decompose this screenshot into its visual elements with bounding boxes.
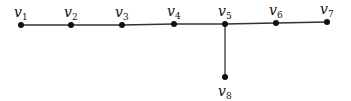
labels-group: v1v2v3v4v5v6v7v8 <box>14 1 334 101</box>
edge-v3-v4 <box>122 24 174 25</box>
node-v3 <box>119 22 125 28</box>
edges-group <box>21 22 327 77</box>
node-v8 <box>222 74 228 80</box>
node-label-v6: v6 <box>269 2 283 20</box>
node-v2 <box>68 22 74 28</box>
node-v4 <box>171 21 177 27</box>
nodes-group <box>18 19 330 80</box>
node-label-v8: v8 <box>218 83 232 101</box>
node-label-v1: v1 <box>14 4 28 22</box>
node-v1 <box>18 22 24 28</box>
graph-diagram: v1v2v3v4v5v6v7v8 <box>0 0 351 101</box>
edge-v6-v7 <box>276 22 327 23</box>
node-v7 <box>324 19 330 25</box>
node-v6 <box>273 20 279 26</box>
edge-v5-v6 <box>225 23 276 24</box>
node-label-v4: v4 <box>167 3 181 21</box>
node-label-v7: v7 <box>320 1 334 19</box>
node-label-v3: v3 <box>115 4 129 22</box>
node-v5 <box>222 21 228 27</box>
node-label-v5: v5 <box>218 3 232 21</box>
node-label-v2: v2 <box>64 4 78 22</box>
